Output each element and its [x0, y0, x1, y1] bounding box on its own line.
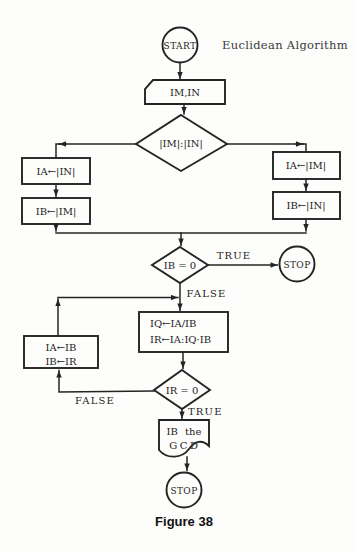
output-line1: IB the: [167, 426, 202, 437]
ib-true-label: TRUE: [217, 250, 252, 261]
edge-irzero-swap: [59, 371, 154, 393]
output-line2: GCD: [169, 440, 200, 451]
figure-caption: Figure 38: [155, 514, 213, 529]
compute-line2: IR←IA:IQ·IB: [150, 334, 211, 345]
ir-zero-label: IR = 0: [166, 385, 199, 396]
ir-true-label: TRUE: [188, 406, 223, 417]
ib-false-label: FALSE: [187, 288, 227, 299]
edge-compare-left: [56, 144, 136, 158]
ir-false-label: FALSE: [75, 395, 115, 406]
assign-ia-im-label: IA←|IM|: [286, 160, 326, 172]
heading-text: Euclidean Algorithm: [222, 38, 348, 52]
ib-zero-label: IB = 0: [164, 260, 196, 271]
edge-compare-right: [227, 144, 306, 152]
compute-line1: IQ←IA/IB: [150, 318, 196, 329]
swap-line1: IA←IB: [46, 342, 77, 353]
euclidean-algorithm-flowchart: Euclidean Algorithm START IM,IN |IM|:|IN…: [0, 0, 357, 552]
stop-right-label: STOP: [283, 260, 310, 270]
figure-page: Euclidean Algorithm START IM,IN |IM|:|IN…: [0, 0, 357, 552]
start-label: START: [164, 41, 197, 51]
assign-ib-im-label: IB←|IM|: [36, 206, 77, 218]
input-label: IM,IN: [170, 87, 200, 98]
swap-line2: IB←IR: [45, 356, 77, 367]
compare-label: |IM|:|IN|: [159, 138, 203, 150]
stop-bottom-label: STOP: [170, 486, 197, 496]
assign-ib-in-label: IB←|IN|: [286, 200, 325, 212]
assign-ia-in-label: IA←|IN|: [37, 166, 76, 178]
